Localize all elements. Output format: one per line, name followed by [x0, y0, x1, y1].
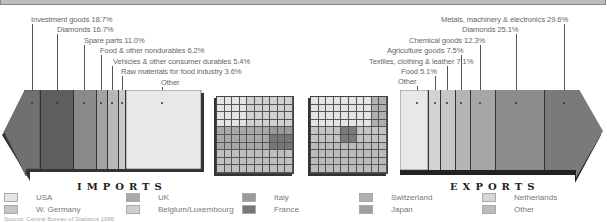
- grid-cell: [319, 112, 327, 120]
- grid-cell: [240, 127, 248, 135]
- grid-cell: [217, 120, 225, 128]
- grid-cell: [255, 158, 263, 166]
- grid-cell: [326, 150, 334, 158]
- grid-cell: [357, 150, 365, 158]
- grid-cell: [232, 97, 240, 105]
- grid-cell: [217, 112, 225, 120]
- grid-cell: [285, 127, 293, 135]
- grid-cell: [232, 150, 240, 158]
- grid-cell: [364, 120, 372, 128]
- label-imp-diamonds: Diamonds 16.7%: [57, 25, 113, 34]
- grid-cell: [379, 143, 387, 151]
- grid-cell: [311, 105, 319, 113]
- grid-cell: [379, 127, 387, 135]
- grid-cell: [379, 97, 387, 105]
- grid-cell: [326, 127, 334, 135]
- grid-cell: [311, 135, 319, 143]
- grid-cell: [311, 120, 319, 128]
- grid-cell: [326, 120, 334, 128]
- label-chemical: Chemical goods 12.3%: [409, 36, 485, 45]
- grid-cell: [364, 127, 372, 135]
- grid-cell: [278, 120, 286, 128]
- grid-cell: [270, 105, 278, 113]
- grid-cell: [217, 165, 225, 173]
- grid-cell: [326, 135, 334, 143]
- legend-label: W. Germany: [36, 205, 80, 214]
- legend-belgium: Belgium/Luxembourg: [126, 205, 234, 214]
- marker-dot: [460, 102, 462, 104]
- grid-cell: [247, 97, 255, 105]
- exports-partner-grid: [310, 96, 388, 174]
- legend-label: Italy: [274, 193, 289, 202]
- grid-cell: [240, 97, 248, 105]
- legend-other: Other: [482, 205, 534, 214]
- grid-cell: [247, 105, 255, 113]
- grid-cell: [311, 143, 319, 151]
- grid-cell: [217, 127, 225, 135]
- grid-cell: [319, 143, 327, 151]
- grid-cell: [319, 150, 327, 158]
- grid-cell: [311, 158, 319, 166]
- marker-dot: [563, 102, 565, 104]
- grid-cell: [263, 127, 271, 135]
- grid-cell: [357, 158, 365, 166]
- label-vehicles: Vehicles & other consumer durables 5.4%: [113, 57, 250, 66]
- grid-cell: [255, 112, 263, 120]
- grid-cell: [285, 165, 293, 173]
- grid-cell: [255, 127, 263, 135]
- label-metals: Metals, machinery & electronics 29.6%: [441, 15, 568, 24]
- grid-cell: [285, 97, 293, 105]
- grid-cell: [247, 127, 255, 135]
- grid-cell: [319, 97, 327, 105]
- grid-cell: [349, 97, 357, 105]
- marker-dot: [434, 102, 436, 104]
- grid-cell: [341, 150, 349, 158]
- grid-cell: [232, 158, 240, 166]
- grid-cell: [372, 120, 380, 128]
- grid-cell: [285, 120, 293, 128]
- grid-cell: [240, 135, 248, 143]
- grid-cell: [379, 158, 387, 166]
- grid-cell: [334, 158, 342, 166]
- marker-dot: [515, 102, 517, 104]
- label-spare-parts: Spare parts 11.0%: [84, 36, 145, 45]
- grid-cell: [319, 158, 327, 166]
- marker-dot: [56, 102, 58, 104]
- swatch: [4, 193, 18, 202]
- grid-cell: [319, 105, 327, 113]
- grid-cell: [334, 97, 342, 105]
- grid-cell: [232, 165, 240, 173]
- grid-cell: [285, 150, 293, 158]
- exports-arrow: [400, 90, 607, 186]
- grid-cell: [349, 165, 357, 173]
- grid-cell: [255, 150, 263, 158]
- grid-cell: [349, 135, 357, 143]
- grid-cell: [278, 150, 286, 158]
- grid-cell: [372, 105, 380, 113]
- grid-cell: [326, 143, 334, 151]
- grid-cell: [217, 135, 225, 143]
- grid-cell: [270, 143, 278, 151]
- legend-italy: Italy: [242, 193, 289, 202]
- grid-cell: [349, 112, 357, 120]
- grid-cell: [372, 150, 380, 158]
- grid-cell: [357, 97, 365, 105]
- grid-cell: [263, 105, 271, 113]
- grid-cell: [263, 135, 271, 143]
- grid-cell: [232, 135, 240, 143]
- grid-cell: [217, 105, 225, 113]
- legend-label: Netherlands: [514, 193, 557, 202]
- grid-cell: [247, 158, 255, 166]
- grid-cell: [255, 143, 263, 151]
- grid-cell: [285, 112, 293, 120]
- grid-cell: [278, 127, 286, 135]
- grid-cell: [255, 105, 263, 113]
- grid-cell: [311, 97, 319, 105]
- grid-cell: [379, 150, 387, 158]
- grid-cell: [334, 150, 342, 158]
- grid-cell: [240, 150, 248, 158]
- legend-switzerland: Switzerland: [359, 193, 432, 202]
- grid-cell: [379, 135, 387, 143]
- grid-cell: [278, 97, 286, 105]
- grid-cell: [278, 158, 286, 166]
